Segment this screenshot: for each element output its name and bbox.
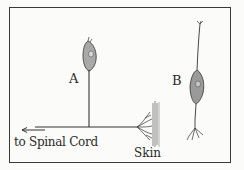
neuron-b (187, 21, 204, 140)
arrow-left-icon (22, 128, 45, 133)
label-to-spinal-cord: to Spinal Cord (14, 135, 98, 149)
neuron-a (83, 37, 96, 127)
label-neuron-a: A (69, 71, 78, 86)
label-skin: Skin (134, 146, 161, 160)
label-neuron-b: B (172, 73, 182, 88)
